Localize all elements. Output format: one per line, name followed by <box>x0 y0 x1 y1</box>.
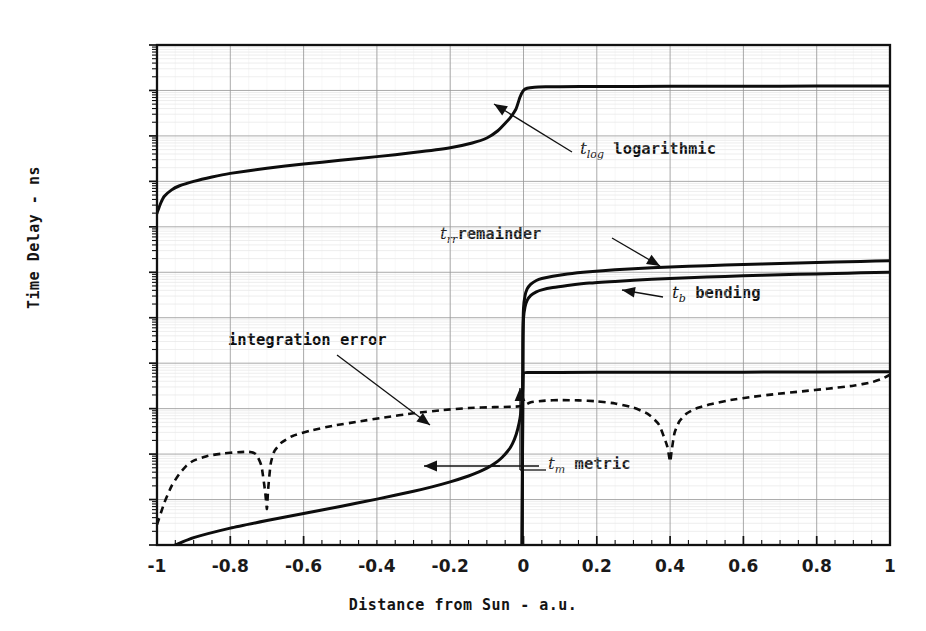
leader-t-m-left-arrowhead <box>424 461 437 472</box>
data-curve-2 <box>522 261 890 545</box>
leader-integration-error-line <box>337 355 430 425</box>
leader-t-rr-arrowhead <box>646 255 660 266</box>
figure-container: 1E+0061000001000010001001010.10.010.0010… <box>0 0 926 631</box>
leader-integration-error-arrowhead <box>416 413 430 425</box>
plot-canvas <box>0 0 926 631</box>
leader-t-log-arrowhead <box>494 104 508 115</box>
